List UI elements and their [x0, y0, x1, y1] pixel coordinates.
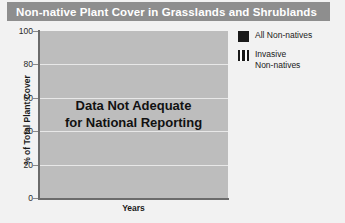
solid-square-icon — [238, 31, 249, 42]
y-axis-title: % of Total Plant Cover — [22, 45, 32, 195]
legend-label-invasive-line-2: Non-natives — [255, 60, 300, 70]
x-axis-title: Years — [39, 203, 228, 213]
chart-figure: Non-native Plant Cover in Grasslands and… — [0, 0, 345, 223]
legend-label-invasive-line-1: Invasive — [255, 49, 286, 59]
chart-title: Non-native Plant Cover in Grasslands and… — [7, 6, 317, 18]
legend-item-all-non-natives: All Non-natives — [238, 30, 343, 42]
no-data-line-2: for National Reporting — [65, 115, 202, 131]
legend-label-all-non-natives: All Non-natives — [255, 30, 312, 41]
legend-label-invasive-non-natives: InvasiveNon-natives — [255, 49, 300, 71]
no-data-annotation: Data Not Adequate for National Reporting — [39, 31, 228, 198]
y-tick-label-100: 100 — [1, 26, 33, 36]
x-axis-line — [38, 198, 229, 200]
legend-item-invasive-non-natives: InvasiveNon-natives — [238, 49, 343, 71]
chart-title-bar: Non-native Plant Cover in Grasslands and… — [7, 2, 330, 21]
chart-legend: All Non-natives InvasiveNon-natives — [238, 30, 343, 78]
plot-area: Data Not Adequate for National Reporting — [39, 31, 228, 198]
no-data-line-1: Data Not Adequate — [76, 98, 192, 114]
vertical-bars-square-icon — [238, 50, 249, 61]
